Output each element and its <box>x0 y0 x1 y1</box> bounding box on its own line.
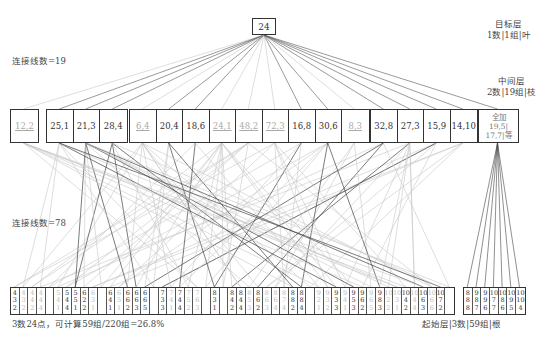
start-digit: 4 <box>178 305 182 313</box>
start-node: 541 <box>54 288 63 314</box>
mid-node: 16,8 <box>289 110 316 142</box>
start-digit: 3 <box>334 305 338 313</box>
start-digit: 1 <box>169 305 173 313</box>
start-digit: 3 <box>421 305 425 313</box>
start-digit: 1 <box>117 305 121 313</box>
start-node: 1077 <box>490 288 499 314</box>
mid-group: 全加19,5|17,7|等 <box>478 109 519 143</box>
start-node: 744 <box>176 288 185 314</box>
start-node: 962 <box>359 288 368 314</box>
start-node: 853 <box>246 288 255 314</box>
mid-note-text: 19,5| <box>489 122 508 131</box>
start-node: 864 <box>272 288 281 314</box>
mid-node: 32,8 <box>371 110 398 142</box>
start-node: 1095 <box>507 288 516 314</box>
start-digit: 4 <box>299 305 303 313</box>
mid-node: 6,4 <box>130 110 157 142</box>
mid-note-text: 全加 <box>492 113 506 122</box>
start-node: 763 <box>193 288 202 314</box>
start-node: 733 <box>159 288 168 314</box>
start-node: 844 <box>237 288 246 314</box>
start-node: 663 <box>133 288 142 314</box>
mid-group: 12,2 <box>10 109 39 143</box>
start-digit: 1 <box>56 305 60 313</box>
mid-node: 12,2 <box>11 110 38 142</box>
mid-node: 48,2 <box>236 110 263 142</box>
start-node <box>46 288 55 314</box>
mid-node: 30,6 <box>316 110 343 142</box>
start-node <box>220 288 229 314</box>
start-node: 882 <box>289 288 298 314</box>
start-node: 863 <box>263 288 272 314</box>
start-digit: 1 <box>91 305 95 313</box>
start-digit: 1 <box>317 305 321 313</box>
start-node: 544 <box>63 288 72 314</box>
start-digit: 6 <box>501 305 505 313</box>
start-digit: 7 <box>492 305 496 313</box>
start-node: 884 <box>298 288 307 314</box>
mid-group: 25,121,328,4 <box>46 109 128 143</box>
target-layer-title: 目标层 <box>487 19 531 30</box>
start-digit: 2 <box>187 305 191 313</box>
links-bottom-count: 连接线数=78 <box>12 218 66 229</box>
start-digit: 3 <box>265 305 269 313</box>
start-digit: 1 <box>108 305 112 313</box>
start-digit: 2 <box>13 305 17 313</box>
start-node: 933 <box>332 288 341 314</box>
mid-layer-title: 中间层 <box>487 76 536 87</box>
mid-node: 8,3 <box>342 110 369 142</box>
start-node: 987 <box>473 288 482 314</box>
start-digit: 4 <box>65 305 69 313</box>
start-digit: 2 <box>82 305 86 313</box>
start-node: 662 <box>124 288 133 314</box>
start-digit: 1 <box>213 305 217 313</box>
start-node: 862 <box>254 288 263 314</box>
start-digit: 1 <box>74 305 78 313</box>
start-digit: 3 <box>160 305 164 313</box>
links-top-count: 连接线数=19 <box>12 56 66 67</box>
start-node: 1044 <box>411 288 420 314</box>
mid-node: 21,3 <box>74 110 101 142</box>
start-digit: 4 <box>273 305 277 313</box>
start-node: 432 <box>11 288 20 314</box>
start-digit: 2 <box>30 305 34 313</box>
mid-node: 全加19,5|17,7|等 <box>479 110 518 142</box>
mid-group: 32,827,315,914,10 <box>370 109 478 143</box>
mid-node: 24,1 <box>210 110 237 142</box>
start-digit: 7 <box>474 305 478 313</box>
start-digit: 2 <box>360 305 364 313</box>
start-node: 874 <box>280 288 289 314</box>
target-layer-desc: 1数|1组|叶 <box>487 30 531 41</box>
start-node: 631 <box>89 288 98 314</box>
start-node: 10104 <box>516 288 525 314</box>
start-digit: 4 <box>518 305 522 313</box>
start-node <box>150 288 159 314</box>
summary-text: 3数24点，可计算59组/220组=26.8% <box>12 319 164 330</box>
target-value: 24 <box>258 22 269 32</box>
mid-node: 20,4 <box>157 110 184 142</box>
start-digit: 4 <box>282 305 286 313</box>
start-digit: 3 <box>378 305 382 313</box>
mid-layer-desc: 2数|19组|枝 <box>487 87 536 98</box>
start-node: 551 <box>72 288 81 314</box>
start-node: 932 <box>324 288 333 314</box>
start-node <box>98 288 107 314</box>
start-node: 1042 <box>402 288 411 314</box>
start-digit: 3 <box>134 305 138 313</box>
start-digit: 4 <box>239 305 243 313</box>
mid-note-text: 17,7|等 <box>485 131 511 140</box>
start-digit: 2 <box>230 305 234 313</box>
start-layer-row: 4324324424445415445516226316416516626636… <box>10 287 455 315</box>
start-node: 1063 <box>419 288 428 314</box>
mid-node: 27,3 <box>398 110 425 142</box>
start-digit: 2 <box>404 305 408 313</box>
start-digit: 1 <box>343 305 347 313</box>
start-digit: 8 <box>466 305 470 313</box>
target-layer-label: 目标层 1数|1组|叶 <box>487 19 531 41</box>
start-digit: 2 <box>386 305 390 313</box>
start-node: 622 <box>81 288 90 314</box>
start-digit: 5 <box>369 305 373 313</box>
start-node: 432 <box>20 288 29 314</box>
start-digit: 6 <box>483 305 487 313</box>
start-digit: 2 <box>326 305 330 313</box>
